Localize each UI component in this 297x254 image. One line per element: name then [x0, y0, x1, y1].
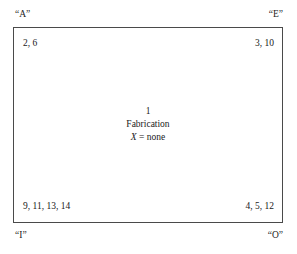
idef0-diagram: “A” “E” “I” “O” 2, 6 3, 10 9, 11, 13, 14… [0, 0, 297, 254]
corner-label-a: “A” [15, 10, 30, 20]
function-box: 2, 6 3, 10 9, 11, 13, 14 4, 5, 12 1 Fabr… [13, 27, 283, 223]
arrow-refs-top-right: 3, 10 [255, 39, 274, 49]
function-box-center-text: 1 Fabrication X = none [14, 105, 282, 144]
arrow-refs-bottom-right: 4, 5, 12 [246, 202, 275, 212]
node-number: 1 [14, 105, 282, 118]
corner-label-o: “O” [268, 231, 283, 241]
arrow-refs-bottom-left: 9, 11, 13, 14 [23, 202, 70, 212]
mechanism-value: = none [137, 132, 166, 142]
activity-name: Fabrication [14, 118, 282, 131]
arrow-refs-top-left: 2, 6 [23, 39, 37, 49]
corner-label-e: “E” [269, 10, 283, 20]
mechanism-assignment: X = none [14, 131, 282, 144]
corner-label-i: “I” [15, 231, 27, 241]
